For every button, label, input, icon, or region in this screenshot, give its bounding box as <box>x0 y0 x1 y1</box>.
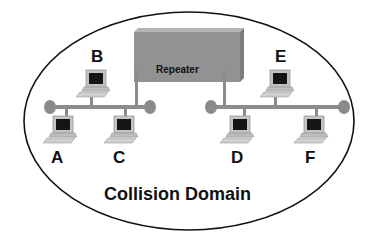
computer-e-icon <box>260 70 294 97</box>
node-label-e: E <box>275 47 286 67</box>
node-label-c: C <box>113 148 125 168</box>
computer-c-icon <box>104 116 138 143</box>
node-label-d: D <box>231 148 243 168</box>
node-label-f: F <box>305 148 315 168</box>
node-label-a: A <box>51 148 63 168</box>
computer-f-icon <box>294 116 328 143</box>
computer-a-icon <box>43 116 77 143</box>
computer-b-icon <box>76 70 110 97</box>
computer-d-icon <box>220 116 254 143</box>
right-bus-segment <box>205 94 350 122</box>
node-label-b: B <box>91 47 103 67</box>
collision-domain-diagram: Repeater B A C E D F Collision Domain <box>0 0 374 240</box>
collision-domain-title: Collision Domain <box>104 184 251 205</box>
repeater-label: Repeater <box>156 64 199 75</box>
